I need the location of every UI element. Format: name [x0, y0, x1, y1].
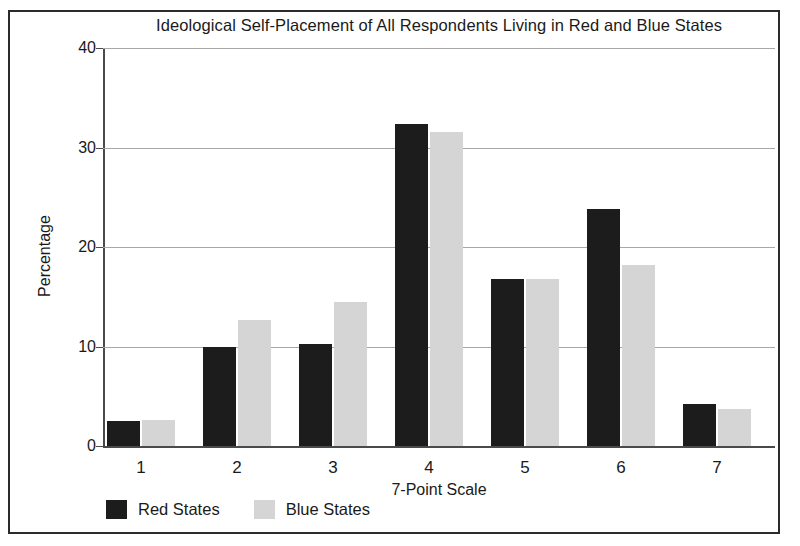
- bar-red-states-5[interactable]: [491, 279, 524, 446]
- bar-blue-states-3[interactable]: [334, 302, 367, 446]
- legend-swatch-icon: [254, 500, 275, 519]
- legend-label: Blue States: [286, 500, 370, 519]
- legend-item-red-states[interactable]: Red States: [106, 500, 220, 519]
- y-tick-label-40: 40: [56, 39, 96, 57]
- x-tick-label-3: 3: [303, 458, 363, 478]
- bar-blue-states-5[interactable]: [526, 279, 559, 446]
- legend-swatch-icon: [106, 500, 127, 519]
- y-axis-title: Percentage: [36, 176, 54, 336]
- y-tick-mark-40: [96, 48, 103, 49]
- chart-title: Ideological Self-Placement of All Respon…: [103, 16, 775, 35]
- bar-blue-states-6[interactable]: [622, 265, 655, 446]
- y-tick-label-0: 0: [56, 437, 96, 455]
- x-tick-label-5: 5: [495, 458, 555, 478]
- x-tick-label-2: 2: [207, 458, 267, 478]
- y-tick-mark-0: [96, 446, 103, 447]
- y-tick-label-20: 20: [56, 238, 96, 256]
- x-tick-label-1: 1: [111, 458, 171, 478]
- bar-blue-states-2[interactable]: [238, 320, 271, 446]
- bar-red-states-1[interactable]: [107, 421, 140, 446]
- gridline-40: [103, 48, 775, 49]
- x-axis-baseline: [103, 446, 775, 448]
- bar-blue-states-7[interactable]: [718, 409, 751, 446]
- y-tick-mark-20: [96, 247, 103, 248]
- bar-red-states-6[interactable]: [587, 209, 620, 446]
- legend-item-blue-states[interactable]: Blue States: [254, 500, 370, 519]
- bar-blue-states-4[interactable]: [430, 132, 463, 446]
- x-tick-label-6: 6: [591, 458, 651, 478]
- y-tick-label-30: 30: [56, 139, 96, 157]
- bar-red-states-3[interactable]: [299, 344, 332, 446]
- chart-figure: Ideological Self-Placement of All Respon…: [0, 0, 800, 546]
- legend-label: Red States: [138, 500, 220, 519]
- bar-red-states-2[interactable]: [203, 347, 236, 447]
- y-tick-mark-10: [96, 347, 103, 348]
- x-tick-label-7: 7: [687, 458, 747, 478]
- bar-red-states-4[interactable]: [395, 124, 428, 446]
- bar-red-states-7[interactable]: [683, 404, 716, 446]
- y-tick-label-10: 10: [56, 338, 96, 356]
- bar-blue-states-1[interactable]: [142, 420, 175, 446]
- y-axis-ticks: 010203040: [48, 0, 96, 546]
- chart-legend: Red StatesBlue States: [106, 500, 370, 519]
- plot-area: [103, 48, 775, 446]
- x-tick-label-4: 4: [399, 458, 459, 478]
- x-axis-title: 7-Point Scale: [103, 481, 775, 499]
- y-tick-mark-30: [96, 148, 103, 149]
